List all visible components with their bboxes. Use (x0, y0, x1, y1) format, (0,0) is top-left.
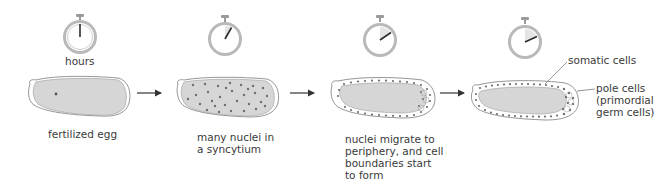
leader-somatic-cells (545, 62, 567, 84)
embryo-syncytium (177, 77, 278, 117)
callout-somatic-cells: somatic cells (568, 54, 636, 66)
diagram-canvas (0, 0, 668, 181)
leader-pole-cells (577, 89, 595, 91)
stage-label-syncytium: many nuclei in a syncytium (197, 131, 274, 155)
callout-pole-cells: pole cells (primordial germ cells) (596, 82, 654, 118)
nucleus (55, 93, 58, 96)
stopwatch-icon-stage-1 (65, 14, 96, 53)
stopwatch-icon-stage-4 (510, 17, 541, 58)
stage-label-fertilized-egg: fertilized egg (48, 128, 117, 140)
embryo-periphery (331, 78, 435, 119)
timer-unit-label: hours (65, 55, 95, 67)
stopwatch-icon-stage-3 (365, 15, 396, 56)
stage-label-periphery: nuclei migrate to periphery, and cell bo… (345, 133, 444, 181)
stopwatch-icon-stage-2 (210, 15, 241, 55)
embryo-blastoderm (471, 62, 595, 120)
embryo-fertilized-egg (29, 76, 130, 116)
